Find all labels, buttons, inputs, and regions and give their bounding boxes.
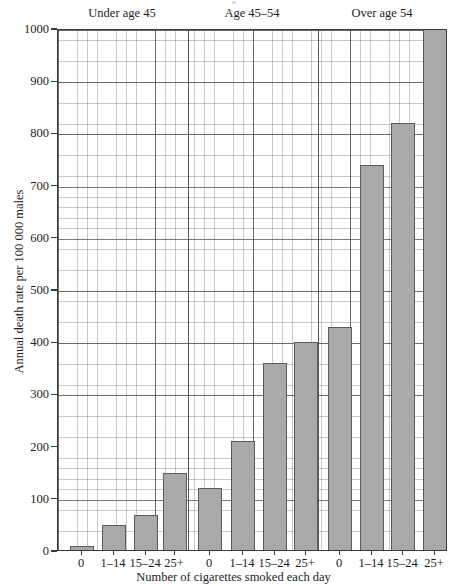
bar-45to54-15-24 — [263, 363, 287, 551]
x-tick-6 — [242, 550, 243, 555]
y-tick-label-800: 800 — [30, 126, 49, 141]
x-tick-9 — [339, 550, 340, 555]
x-tick-11 — [402, 550, 403, 555]
bar-45to54-0 — [198, 488, 222, 551]
x-tick-label-12: 25+ — [409, 556, 459, 571]
bar-under45-15-24 — [134, 515, 158, 552]
x-axis-line — [51, 550, 447, 551]
y-tick-label-100: 100 — [30, 491, 49, 506]
y-tick-label-500: 500 — [30, 283, 49, 298]
bar-over54-25p — [423, 29, 447, 551]
x-tick-7 — [274, 550, 275, 555]
y-tick-label-600: 600 — [30, 230, 49, 245]
bar-under45-25p — [163, 473, 187, 551]
x-tick-3 — [145, 550, 146, 555]
group-separator-1 — [188, 30, 189, 551]
bar-45to54-1-14 — [231, 441, 255, 551]
x-tick-4 — [174, 550, 175, 555]
y-tick-label-300: 300 — [30, 387, 49, 402]
x-tick-1 — [81, 550, 82, 555]
x-axis-title: Number of cigarettes smoked each day — [0, 570, 467, 585]
bar-over54-1-14 — [360, 165, 384, 551]
y-axis-title: Annual death rate per 100 000 males — [12, 167, 27, 397]
x-tick-8 — [305, 550, 306, 555]
plot-area — [57, 29, 447, 551]
y-tick-label-400: 400 — [30, 335, 49, 350]
group-header-under-age-45: Under age 45 — [57, 6, 187, 21]
bar-chart: Under age 45 Age 45–54 Over age 54 1000 … — [0, 0, 467, 586]
group-header-age-45-54: Age 45–54 — [187, 6, 317, 21]
x-tick-2 — [113, 550, 114, 555]
y-tick-label-700: 700 — [30, 178, 49, 193]
bar-over54-15-24 — [391, 123, 415, 551]
y-tick-label-0: 0 — [43, 544, 49, 559]
group-header-row: Under age 45 Age 45–54 Over age 54 — [0, 6, 467, 24]
bar-over54-0 — [328, 327, 352, 552]
group-header-over-age-54: Over age 54 — [317, 6, 447, 21]
x-tick-5 — [209, 550, 210, 555]
y-tick-label-900: 900 — [30, 74, 49, 89]
bar-45to54-25p — [294, 342, 318, 551]
y-tick-label-200: 200 — [30, 439, 49, 454]
x-tick-12 — [434, 550, 435, 555]
y-axis: 1000 900 800 700 600 500 400 300 200 100… — [0, 0, 57, 586]
bar-under45-1-14 — [102, 525, 126, 551]
x-tick-10 — [371, 550, 372, 555]
group-separator-2 — [318, 30, 319, 551]
page-speck — [232, 1, 236, 4]
y-tick-label-1000: 1000 — [24, 22, 49, 37]
